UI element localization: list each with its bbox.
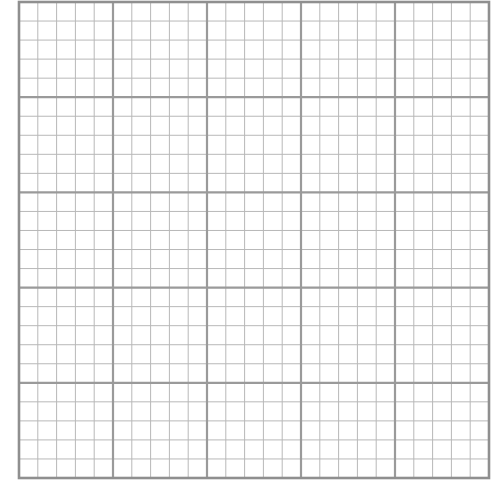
- graph-paper-grid: [0, 0, 494, 486]
- grid-border: [19, 2, 489, 478]
